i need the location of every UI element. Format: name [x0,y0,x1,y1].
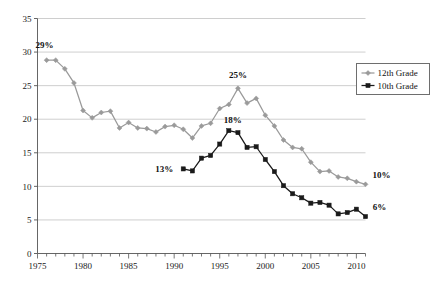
data-point [209,153,213,157]
chart-legend: 12th Grade10th Grade [357,64,430,95]
data-point [363,214,367,218]
line-chart: 05101520253035 1975198019851990199520002… [0,0,447,282]
x-axis-label-1990: 1990 [165,261,184,271]
chart-background [0,0,447,282]
x-axis-label-1975: 1975 [29,261,48,271]
data-point [272,169,276,173]
data-point [245,145,249,149]
chart-canvas: 05101520253035 1975198019851990199520002… [0,0,447,282]
y-axis-label-10: 10 [23,182,33,192]
y-axis-label-35: 35 [23,14,33,24]
y-axis-label-5: 5 [27,215,32,225]
legend-marker-1 [366,83,370,87]
annotation-18pct: 18% [224,115,242,125]
y-axis-label-30: 30 [23,47,33,57]
data-point [263,157,267,161]
annotation-6pct: 6% [373,202,387,212]
data-point [327,203,331,207]
data-point [190,169,194,173]
y-axis-label-15: 15 [23,148,33,158]
data-point [254,145,258,149]
x-axis-label-2010: 2010 [347,261,366,271]
data-point [318,200,322,204]
data-point [300,196,304,200]
data-point [181,167,185,171]
x-axis-label-2005: 2005 [302,261,321,271]
x-axis-label-2000: 2000 [256,261,275,271]
x-axis-label-1980: 1980 [74,261,93,271]
y-axis-label-0: 0 [27,249,32,259]
legend-label-0: 12th Grade [378,68,418,78]
x-axis-label-1995: 1995 [211,261,230,271]
annotation-25pct: 25% [229,70,247,80]
x-axis-label-1985: 1985 [120,261,139,271]
data-point [227,129,231,133]
data-point [218,142,222,146]
annotation-29pct: 29% [36,40,54,50]
annotation-10pct: 10% [373,170,391,180]
annotation-13pct: 13% [155,164,173,174]
data-point [199,156,203,160]
data-point [345,210,349,214]
y-axis-label-20: 20 [23,114,33,124]
y-axis-label-25: 25 [23,81,33,91]
data-point [291,192,295,196]
data-point [309,201,313,205]
data-point [281,184,285,188]
data-point [336,212,340,216]
data-point [354,207,358,211]
data-point [236,131,240,135]
legend-label-1: 10th Grade [378,81,418,91]
